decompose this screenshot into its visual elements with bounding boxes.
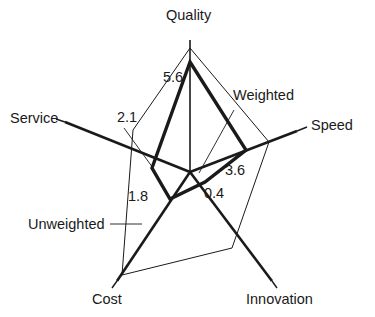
value-label-innovation: 0.4 [204,186,224,201]
axis-label-speed: Speed [311,118,353,133]
connector-cost [112,281,117,288]
axis-label-quality: Quality [166,8,211,23]
series-label-weighted: Weighted [233,88,294,103]
axis-label-connectors [56,119,307,288]
value-label-service: 2.1 [117,110,137,125]
value-label-quality: 5.6 [163,70,183,85]
axis-line-innovation [190,172,272,281]
connector-speed [297,127,307,131]
value-label-cost: 1.8 [128,189,148,204]
connector-innovation [272,281,277,288]
axis-label-innovation: Innovation [246,292,313,307]
radar-chart: Quality Speed Innovation Cost Service We… [0,0,375,317]
radar-chart-canvas [0,0,375,317]
axis-line-service [65,122,190,172]
series-label-unweighted: Unweighted [28,217,105,232]
value-label-speed: 3.6 [225,163,245,178]
axis-label-service: Service [10,111,58,126]
axis-label-cost: Cost [92,292,122,307]
